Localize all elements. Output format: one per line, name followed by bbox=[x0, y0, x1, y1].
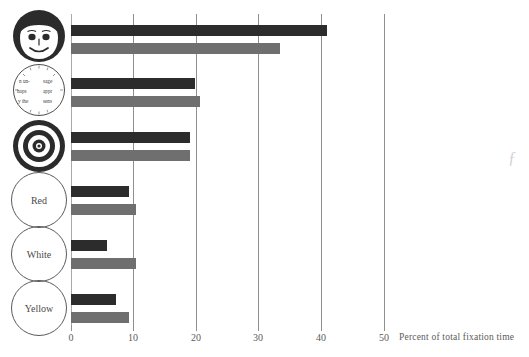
scan-artifact: ƒ bbox=[508, 148, 517, 168]
gridline-30 bbox=[258, 14, 259, 325]
tick-mark bbox=[321, 325, 322, 331]
bar-face-light bbox=[71, 43, 280, 54]
text-fragment: haps bbox=[17, 89, 27, 94]
gridline-40 bbox=[321, 14, 322, 325]
tick-mark bbox=[71, 325, 72, 331]
gridline-10 bbox=[133, 14, 134, 325]
bar-white-light bbox=[71, 258, 136, 269]
text-fragment: n un- bbox=[19, 79, 30, 84]
category-label-red: Red bbox=[31, 195, 47, 206]
bar-bullseye-light bbox=[71, 150, 190, 161]
tick-mark bbox=[258, 325, 259, 331]
bar-bullseye-dark bbox=[71, 132, 190, 143]
tick-mark bbox=[133, 325, 134, 331]
category-label-white: White bbox=[27, 249, 51, 260]
bar-white-dark bbox=[71, 240, 107, 251]
bar-red-light bbox=[71, 204, 136, 215]
x-tick-label-10: 10 bbox=[128, 332, 138, 343]
gridline-20 bbox=[196, 14, 197, 325]
tick-mark bbox=[196, 325, 197, 331]
bar-text-dark bbox=[71, 78, 195, 89]
bar-text-light bbox=[71, 96, 200, 107]
plot-area bbox=[71, 14, 385, 325]
circle-label-red: Red bbox=[11, 172, 67, 228]
bullseye-icon bbox=[11, 118, 67, 174]
x-tick-label-0: 0 bbox=[69, 332, 74, 343]
circle-label-yellow: Yellow bbox=[11, 280, 67, 336]
x-tick-label-30: 30 bbox=[253, 332, 263, 343]
bar-face-dark bbox=[71, 25, 327, 36]
tick-mark bbox=[384, 325, 385, 331]
circle-label-white: White bbox=[11, 226, 67, 282]
text-fragment: sens bbox=[43, 99, 52, 104]
horizontal-bar-chart: 0 10 20 30 40 50 Percent of total fixati… bbox=[0, 0, 529, 357]
bar-yellow-dark bbox=[71, 294, 116, 305]
x-axis-label: Percent of total fixation time bbox=[399, 332, 514, 342]
bar-yellow-light bbox=[71, 312, 129, 323]
x-tick-label-40: 40 bbox=[316, 332, 326, 343]
category-label-yellow: Yellow bbox=[25, 303, 53, 314]
x-tick-label-50: 50 bbox=[379, 332, 389, 343]
text-fragment: y the bbox=[18, 99, 28, 104]
text-fragment: sage bbox=[43, 79, 52, 84]
gridline-50 bbox=[384, 14, 385, 325]
gridline-0 bbox=[71, 14, 72, 325]
text-fragment: appr bbox=[43, 89, 52, 94]
text-block-icon: n un- sage haps appr y the sens bbox=[11, 62, 67, 118]
x-tick-label-20: 20 bbox=[191, 332, 201, 343]
bar-red-dark bbox=[71, 186, 129, 197]
face-icon bbox=[11, 8, 67, 64]
